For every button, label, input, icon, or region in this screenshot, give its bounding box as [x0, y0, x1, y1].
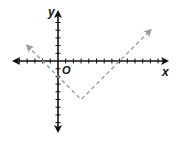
axis-ticks — [20, 23, 159, 123]
absolute-value-graph — [27, 30, 150, 99]
origin-label: O — [62, 64, 71, 76]
x-axis-label: x — [161, 65, 170, 79]
coordinate-graph: y x O — [0, 0, 177, 144]
graph-arrow-right — [147, 30, 151, 34]
y-axis-label: y — [47, 5, 56, 19]
